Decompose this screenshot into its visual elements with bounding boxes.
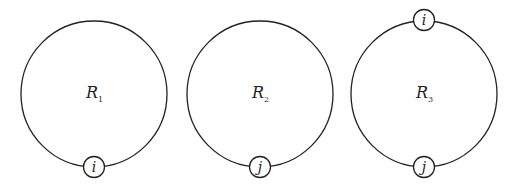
- diagram-canvas: R1 i R2 j R3 i j: [0, 0, 513, 192]
- node-i-loop-1: i: [84, 157, 105, 178]
- node-i-loop-3: i: [414, 10, 435, 31]
- svg-text:i: i: [422, 12, 426, 28]
- region-label-r1: R1: [85, 83, 103, 104]
- loop-2: R2 j: [187, 21, 333, 178]
- region-label-r3: R3: [415, 83, 433, 104]
- node-j-loop-3: j: [414, 157, 435, 178]
- loop-3: R3 i j: [351, 10, 497, 178]
- region-label-r2: R2: [251, 83, 269, 104]
- svg-text:i: i: [92, 159, 96, 175]
- loop-1: R1 i: [21, 21, 167, 178]
- node-j-loop-2: j: [250, 157, 271, 178]
